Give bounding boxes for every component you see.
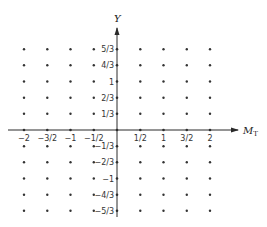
y-tick-label: −2/3 (94, 158, 114, 167)
lattice-point (23, 97, 25, 99)
lattice-point (46, 48, 48, 50)
lattice-point (139, 194, 141, 196)
lattice-point (46, 210, 48, 212)
lattice-point (162, 177, 164, 179)
lattice-point (46, 177, 48, 179)
y-tick-label: 4/3 (101, 61, 114, 70)
lattice-point (46, 145, 48, 147)
y-tick-label: −1 (102, 175, 114, 184)
lattice-point (23, 177, 25, 179)
lattice-point (23, 145, 25, 147)
weight-lattice-diagram: −2−3/2−1−1/21/213/22 5/34/312/31/3−1/3−2… (0, 0, 267, 227)
x-axis-label: MT (242, 125, 258, 138)
lattice-point (46, 194, 48, 196)
lattice-point (186, 97, 188, 99)
lattice-point (209, 161, 211, 163)
lattice-point (23, 113, 25, 115)
lattice-point (186, 48, 188, 50)
lattice-point (46, 161, 48, 163)
lattice-point (93, 177, 95, 179)
lattice-point (162, 80, 164, 82)
x-tick-label: −3/2 (38, 134, 58, 143)
lattice-point (69, 80, 71, 82)
lattice-point (162, 145, 164, 147)
y-tick-label: 2/3 (101, 94, 114, 103)
y-tick-label: −1/3 (94, 142, 114, 151)
lattice-point (69, 145, 71, 147)
y-tick-label: −4/3 (94, 191, 114, 200)
lattice-point (46, 64, 48, 66)
y-tick-label: −5/3 (94, 207, 114, 216)
y-axis-label: Y (114, 13, 122, 24)
x-tick-labels: −2−3/2−1−1/21/213/22 (18, 134, 212, 143)
lattice-point (162, 48, 164, 50)
lattice-point (139, 161, 141, 163)
lattice-point (139, 64, 141, 66)
lattice-point (209, 48, 211, 50)
lattice-point (186, 80, 188, 82)
x-tick-label: −1 (65, 134, 77, 143)
lattice-point (93, 113, 95, 115)
lattice-point (69, 177, 71, 179)
x-tick-label: 3/2 (180, 134, 193, 143)
lattice-point (186, 161, 188, 163)
lattice-point (69, 194, 71, 196)
lattice-point (93, 64, 95, 66)
lattice-point (139, 210, 141, 212)
lattice-point (23, 161, 25, 163)
y-tick-label: 1/3 (101, 110, 114, 119)
lattice-point (162, 64, 164, 66)
lattice-point (139, 48, 141, 50)
lattice-point (69, 161, 71, 163)
lattice-point (69, 210, 71, 212)
lattice-point (139, 145, 141, 147)
lattice-point (186, 113, 188, 115)
lattice-point (209, 194, 211, 196)
y-tick-label: 5/3 (101, 45, 114, 54)
lattice-point (186, 177, 188, 179)
lattice-point (69, 64, 71, 66)
lattice-point (23, 48, 25, 50)
lattice-point (23, 80, 25, 82)
lattice-point (69, 113, 71, 115)
lattice-point (46, 80, 48, 82)
lattice-point (162, 210, 164, 212)
lattice-point (186, 194, 188, 196)
lattice-point (69, 97, 71, 99)
lattice-point (139, 97, 141, 99)
lattice-point (139, 177, 141, 179)
diagram-canvas: −2−3/2−1−1/21/213/22 5/34/312/31/3−1/3−2… (0, 0, 267, 227)
lattice-point (186, 145, 188, 147)
lattice-point (209, 97, 211, 99)
lattice-point (139, 113, 141, 115)
lattice-point (69, 48, 71, 50)
lattice-point (162, 97, 164, 99)
lattice-point (209, 80, 211, 82)
x-tick-label: −2 (18, 134, 30, 143)
lattice-point (209, 64, 211, 66)
lattice-point (46, 97, 48, 99)
lattice-point (209, 177, 211, 179)
x-tick-label: 2 (207, 134, 212, 143)
lattice-point (46, 113, 48, 115)
lattice-point (162, 113, 164, 115)
lattice-point (162, 194, 164, 196)
lattice-point (186, 210, 188, 212)
lattice-point (139, 80, 141, 82)
y-tick-label: 1 (109, 78, 114, 87)
x-tick-label: 1 (161, 134, 166, 143)
lattice-point (23, 194, 25, 196)
lattice-point (209, 113, 211, 115)
lattice-point (186, 64, 188, 66)
lattice-point (93, 48, 95, 50)
lattice-point (23, 64, 25, 66)
x-tick-label: 1/2 (134, 134, 147, 143)
lattice-point (93, 80, 95, 82)
lattice-point (209, 145, 211, 147)
lattice-point (162, 161, 164, 163)
lattice-point (93, 97, 95, 99)
lattice-point (23, 210, 25, 212)
lattice-point (209, 210, 211, 212)
